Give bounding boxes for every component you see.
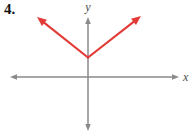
axes-group xyxy=(10,17,179,131)
x-axis-label: x xyxy=(182,70,189,84)
coordinate-plane-svg: y x xyxy=(0,0,192,139)
x-axis-left-arrowhead xyxy=(10,74,17,80)
y-axis-top-arrowhead xyxy=(85,17,91,24)
left-ray-segment xyxy=(41,20,88,57)
math-figure: 4. y x xyxy=(0,0,192,139)
y-axis-label: y xyxy=(84,0,91,14)
x-axis-right-arrowhead xyxy=(172,74,179,80)
right-ray-segment xyxy=(88,19,137,57)
y-axis-bottom-arrowhead xyxy=(85,124,91,131)
